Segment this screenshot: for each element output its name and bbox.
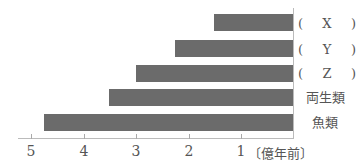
label-text: Y bbox=[323, 41, 332, 58]
paren-open: ( bbox=[298, 15, 303, 32]
paren-close: ) bbox=[351, 65, 356, 82]
bar-z bbox=[136, 65, 294, 82]
bar-fish bbox=[44, 114, 293, 131]
y-axis-line bbox=[293, 8, 294, 139]
paren-close: ) bbox=[351, 41, 356, 58]
x-tick-label: 3 bbox=[126, 143, 146, 159]
x-axis-line bbox=[18, 138, 294, 139]
category-label-amphibians: 両生類 bbox=[296, 89, 354, 106]
paren-open: ( bbox=[298, 41, 303, 58]
category-label-z: ( Z ) bbox=[296, 65, 360, 82]
bar-amphibians bbox=[109, 89, 293, 106]
x-tick-1 bbox=[241, 134, 242, 139]
label-text: X bbox=[322, 15, 331, 32]
paren-open: ( bbox=[298, 65, 303, 82]
x-tick-5 bbox=[31, 134, 32, 139]
x-tick-label: 4 bbox=[74, 143, 94, 159]
category-label-fish: 魚類 bbox=[296, 114, 354, 131]
x-tick-3 bbox=[136, 134, 137, 139]
x-tick-label: 5 bbox=[21, 143, 41, 159]
x-axis-unit-label: 〔億年前〕 bbox=[248, 143, 313, 162]
category-label-x: ( X ) bbox=[296, 15, 360, 32]
category-label-y: ( Y ) bbox=[296, 41, 360, 58]
label-text: Z bbox=[322, 65, 331, 82]
x-tick-label: 2 bbox=[179, 143, 199, 159]
bar-y bbox=[175, 40, 293, 57]
paren-close: ) bbox=[351, 15, 356, 32]
bar-x bbox=[214, 14, 293, 31]
x-tick-2 bbox=[189, 134, 190, 139]
x-tick-4 bbox=[84, 134, 85, 139]
